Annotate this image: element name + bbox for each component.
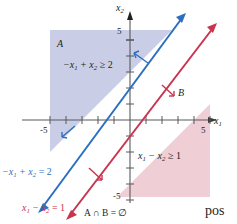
region-A-label: A (57, 39, 63, 49)
x-tick-label-pos5: 5 (201, 126, 206, 135)
boundary-A-equation: −x1 + x2 = 2 (2, 167, 52, 179)
y-axis-label: x2 (116, 3, 124, 15)
y-tick-label-pos5: 5 (117, 27, 122, 36)
x-axis-label: x1 (214, 116, 222, 128)
direction-arrow-B-lower (89, 168, 102, 180)
x-tick-label-neg5: -5 (40, 126, 48, 135)
y-axis-arrow (127, 11, 133, 20)
figure-caption: A ∩ B = ∅ (84, 209, 127, 219)
boundary-B-equation: x1 − x2 = 1 (22, 203, 65, 215)
y-tick-label-neg5: -5 (113, 192, 121, 201)
region-B-label: B (178, 88, 184, 98)
trailing-body-text: pos (205, 204, 224, 218)
region-B-inequality: x1 − x2 ≥ 1 (138, 151, 181, 163)
region-A-inequality: −x1 + x2 ≥ 2 (63, 60, 113, 72)
